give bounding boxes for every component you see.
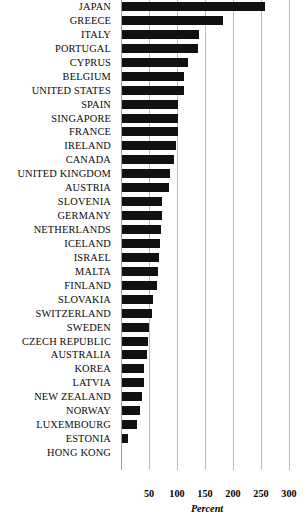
bar-row bbox=[121, 237, 293, 251]
category-label: CZECH REPUBLIC bbox=[0, 335, 116, 349]
bar-row bbox=[121, 153, 293, 167]
bar-row bbox=[121, 307, 293, 321]
category-label: FRANCE bbox=[0, 125, 116, 139]
tick-label: 200 bbox=[225, 488, 240, 499]
bar bbox=[122, 434, 128, 443]
category-label: SWEDEN bbox=[0, 321, 116, 335]
bar-row bbox=[121, 98, 293, 112]
bar-row bbox=[121, 125, 293, 139]
bar-row bbox=[121, 404, 293, 418]
bar-row bbox=[121, 348, 293, 362]
bar-row bbox=[121, 167, 293, 181]
tick-label: 250 bbox=[253, 488, 268, 499]
bar bbox=[122, 392, 142, 401]
category-label: GERMANY bbox=[0, 209, 116, 223]
bar bbox=[122, 323, 149, 332]
bar bbox=[122, 225, 161, 234]
category-label: ICELAND bbox=[0, 237, 116, 251]
category-label: SLOVENIA bbox=[0, 195, 116, 209]
bar-row bbox=[121, 14, 293, 28]
bar bbox=[122, 337, 148, 346]
bar bbox=[122, 2, 265, 11]
bar-row bbox=[121, 112, 293, 126]
category-label: NETHERLANDS bbox=[0, 223, 116, 237]
bar-row bbox=[121, 362, 293, 376]
category-label: SINGAPORE bbox=[0, 112, 116, 126]
tick-label: 100 bbox=[169, 488, 184, 499]
bar bbox=[122, 211, 162, 220]
category-label: KOREA bbox=[0, 362, 116, 376]
category-label: GREECE bbox=[0, 14, 116, 28]
category-label: CANADA bbox=[0, 153, 116, 167]
bar-row bbox=[121, 265, 293, 279]
bar bbox=[122, 406, 140, 415]
bar-row bbox=[121, 0, 293, 14]
bar bbox=[122, 295, 153, 304]
bar-row bbox=[121, 181, 293, 195]
category-label: ITALY bbox=[0, 28, 116, 42]
bar-row bbox=[121, 279, 293, 293]
category-label: HONG KONG bbox=[0, 446, 116, 460]
bar-row bbox=[121, 418, 293, 432]
bar-row bbox=[121, 223, 293, 237]
category-label: IRELAND bbox=[0, 139, 116, 153]
category-label: BELGIUM bbox=[0, 70, 116, 84]
category-axis-labels: JAPANGREECEITALYPORTUGALCYPRUSBELGIUMUNI… bbox=[0, 0, 116, 470]
bar bbox=[122, 169, 170, 178]
bar-row bbox=[121, 139, 293, 153]
bar-row bbox=[121, 42, 293, 56]
category-label: ISRAEL bbox=[0, 251, 116, 265]
bar bbox=[122, 378, 144, 387]
bar bbox=[122, 420, 137, 429]
category-label: JAPAN bbox=[0, 0, 116, 14]
bar-chart: JAPANGREECEITALYPORTUGALCYPRUSBELGIUMUNI… bbox=[0, 0, 307, 532]
bar-row bbox=[121, 70, 293, 84]
bar bbox=[122, 127, 178, 136]
bar bbox=[122, 44, 198, 53]
bar bbox=[122, 183, 169, 192]
value-axis-title: Percent bbox=[121, 503, 293, 514]
bar bbox=[122, 267, 158, 276]
bar-row bbox=[121, 321, 293, 335]
plot-area bbox=[121, 0, 293, 470]
bar-row bbox=[121, 446, 293, 460]
bar bbox=[122, 253, 159, 262]
category-label: NEW ZEALAND bbox=[0, 390, 116, 404]
category-label: NORWAY bbox=[0, 404, 116, 418]
category-label: UNITED KINGDOM bbox=[0, 167, 116, 181]
bar bbox=[122, 58, 188, 67]
category-label: UNITED STATES bbox=[0, 84, 116, 98]
bar bbox=[122, 350, 147, 359]
bar bbox=[122, 155, 174, 164]
bar-row bbox=[121, 56, 293, 70]
bar-row bbox=[121, 28, 293, 42]
category-label: SLOVAKIA bbox=[0, 293, 116, 307]
category-label: AUSTRALIA bbox=[0, 348, 116, 362]
bars-layer bbox=[121, 0, 293, 470]
category-label: CYPRUS bbox=[0, 56, 116, 70]
bar bbox=[122, 114, 178, 123]
bar bbox=[122, 281, 157, 290]
bar bbox=[122, 86, 184, 95]
bar-row bbox=[121, 209, 293, 223]
bar bbox=[122, 30, 199, 39]
value-axis: 50100150200250300 Percent bbox=[121, 470, 293, 532]
tick-label: 150 bbox=[197, 488, 212, 499]
bar bbox=[122, 364, 144, 373]
bar bbox=[122, 239, 160, 248]
bar-row bbox=[121, 335, 293, 349]
bar-row bbox=[121, 293, 293, 307]
bar-row bbox=[121, 376, 293, 390]
category-label: LATVIA bbox=[0, 376, 116, 390]
bar bbox=[122, 16, 223, 25]
category-label: SPAIN bbox=[0, 98, 116, 112]
bar-row bbox=[121, 432, 293, 446]
tick-label: 300 bbox=[281, 488, 296, 499]
bar bbox=[122, 309, 152, 318]
bar bbox=[122, 100, 178, 109]
bar-row bbox=[121, 390, 293, 404]
tick-label: 50 bbox=[144, 488, 154, 499]
bar-row bbox=[121, 251, 293, 265]
bar-row bbox=[121, 84, 293, 98]
bar bbox=[122, 141, 176, 150]
